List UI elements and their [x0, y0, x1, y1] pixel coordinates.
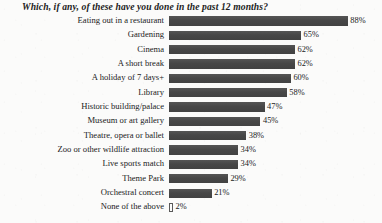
- chart-title: Which, if any, of these have you done in…: [22, 1, 268, 13]
- bar-row: Library58%: [0, 86, 382, 100]
- bar: [169, 131, 246, 140]
- category-label: Theme Park: [122, 172, 164, 186]
- bar-row: Cinema62%: [0, 43, 382, 57]
- bar-value-label: 45%: [263, 116, 278, 126]
- category-label: Cinema: [137, 43, 164, 57]
- bar: [169, 102, 265, 111]
- category-label: None of the above: [101, 200, 164, 214]
- bar-chart-figure: Which, if any, of these have you done in…: [0, 0, 382, 223]
- category-label: Zoo or other wildlife attraction: [58, 143, 164, 157]
- bar: [169, 74, 291, 83]
- bar: [169, 203, 173, 212]
- chart-plot-area: Eating out in a restaurant88%Gardening65…: [0, 14, 382, 215]
- bar-row: Theme Park29%: [0, 172, 382, 186]
- bar: [169, 117, 260, 126]
- category-label: Historic building/palace: [81, 100, 164, 114]
- bar: [169, 45, 295, 54]
- bar-value-label: 47%: [267, 102, 282, 112]
- bar: [169, 59, 295, 68]
- category-label: Orchestral concert: [101, 186, 164, 200]
- bar-row: Gardening65%: [0, 28, 382, 42]
- bar: [169, 145, 238, 154]
- bar-row: Orchestral concert21%: [0, 186, 382, 200]
- bar-track: 2%: [169, 203, 382, 212]
- bar-row: Historic building/palace47%: [0, 100, 382, 114]
- category-label: Museum or art gallery: [87, 114, 164, 128]
- bar-track: 21%: [169, 189, 382, 198]
- bar: [169, 160, 238, 169]
- bar-value-label: 38%: [249, 131, 264, 141]
- bar-value-label: 34%: [241, 145, 256, 155]
- category-label: Eating out in a restaurant: [78, 14, 164, 28]
- category-label: Live sports match: [102, 157, 164, 171]
- bar-row: Theatre, opera or ballet38%: [0, 129, 382, 143]
- bar-row: Zoo or other wildlife attraction34%: [0, 143, 382, 157]
- bar-track: 38%: [169, 131, 382, 140]
- category-label: Gardening: [128, 28, 164, 42]
- bar-value-label: 88%: [350, 16, 365, 26]
- bar: [169, 31, 301, 40]
- bar-row: Live sports match34%: [0, 157, 382, 171]
- bar-row: None of the above2%: [0, 200, 382, 214]
- bar-track: 62%: [169, 45, 382, 54]
- bar: [169, 16, 348, 25]
- category-label: A holiday of 7 days+: [92, 71, 164, 85]
- bar: [169, 189, 212, 198]
- bar-track: 58%: [169, 88, 382, 97]
- bar-track: 60%: [169, 74, 382, 83]
- bar-track: 47%: [169, 102, 382, 111]
- bar-row: Eating out in a restaurant88%: [0, 14, 382, 28]
- bar-track: 34%: [169, 160, 382, 169]
- bar-row: A holiday of 7 days+60%: [0, 71, 382, 85]
- bar-value-label: 62%: [297, 59, 312, 69]
- bar: [169, 174, 228, 183]
- category-label: A short break: [118, 57, 164, 71]
- bar-track: 34%: [169, 145, 382, 154]
- bar-value-label: 58%: [289, 88, 304, 98]
- bar: [169, 88, 287, 97]
- bar-value-label: 29%: [230, 174, 245, 184]
- bar-value-label: 21%: [214, 188, 229, 198]
- bar-value-label: 34%: [241, 159, 256, 169]
- category-label: Theatre, opera or ballet: [84, 129, 164, 143]
- bar-value-label: 60%: [293, 73, 308, 83]
- bar-track: 88%: [169, 16, 382, 25]
- bar-row: A short break62%: [0, 57, 382, 71]
- bar-row: Museum or art gallery45%: [0, 114, 382, 128]
- bar-track: 62%: [169, 59, 382, 68]
- bar-value-label: 65%: [304, 30, 319, 40]
- bar-value-label: 2%: [176, 202, 187, 212]
- bar-track: 65%: [169, 31, 382, 40]
- bar-track: 29%: [169, 174, 382, 183]
- bar-track: 45%: [169, 117, 382, 126]
- category-label: Library: [138, 86, 164, 100]
- bar-value-label: 62%: [297, 45, 312, 55]
